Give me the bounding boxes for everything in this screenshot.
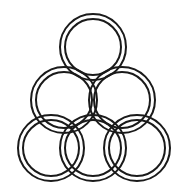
circle-rosette-figure — [0, 0, 182, 192]
